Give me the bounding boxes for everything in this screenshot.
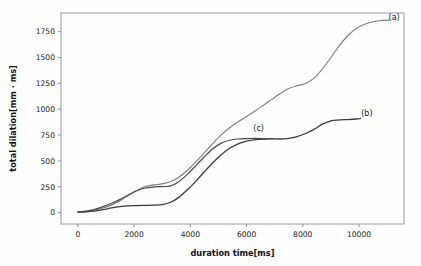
y-tick-label: 1750 xyxy=(36,27,55,36)
x-tick-label: 2000 xyxy=(124,230,143,239)
x-tick-label: 0 xyxy=(75,230,80,239)
y-tick-label: 1250 xyxy=(36,79,55,88)
y-tick-label: 250 xyxy=(41,183,56,192)
series-label-a: (a) xyxy=(389,13,400,22)
series-line-b xyxy=(78,119,361,213)
y-tick-label: 1500 xyxy=(36,53,55,62)
x-tick-label: 8000 xyxy=(293,230,312,239)
y-axis-label: total dilation[mm · ms] xyxy=(8,65,18,172)
x-tick-label: 10000 xyxy=(347,230,371,239)
x-axis-ticks: 0200040006000800010000 xyxy=(75,224,371,239)
x-axis-label: duration time[ms] xyxy=(191,248,275,258)
x-tick-label: 6000 xyxy=(237,230,256,239)
axes-border xyxy=(61,13,404,224)
series-label-b: (b) xyxy=(361,109,372,118)
y-axis-ticks: 02505007501000125015001750 xyxy=(36,27,61,217)
plot-frame xyxy=(61,13,404,224)
line-chart: 0200040006000800010000 02505007501000125… xyxy=(0,0,421,266)
y-tick-label: 500 xyxy=(41,157,56,166)
series-annotations: (a)(b)(c) xyxy=(253,13,399,133)
y-tick-label: 0 xyxy=(50,208,55,217)
figure-container: 0200040006000800010000 02505007501000125… xyxy=(0,0,421,266)
series-line-a xyxy=(78,20,390,212)
y-tick-label: 1000 xyxy=(36,105,55,114)
series-label-c: (c) xyxy=(253,124,264,133)
x-tick-label: 4000 xyxy=(181,230,200,239)
data-curves xyxy=(78,20,390,212)
y-tick-label: 750 xyxy=(41,131,56,140)
